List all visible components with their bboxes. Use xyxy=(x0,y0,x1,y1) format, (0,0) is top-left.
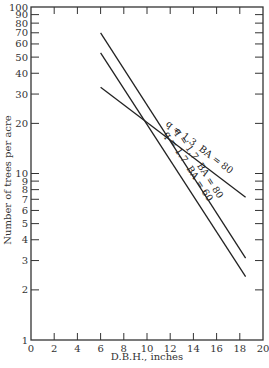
x-tick-label: 14 xyxy=(187,343,200,354)
y-tick-label: 1 xyxy=(22,335,28,346)
y-axis: 123456789102030405060708090100 xyxy=(9,2,263,346)
y-axis-title: Number of trees per acre xyxy=(2,115,13,244)
y-tick-label: 2 xyxy=(22,284,28,295)
x-tick-label: 20 xyxy=(257,343,269,354)
y-tick-label: 100 xyxy=(9,2,28,13)
y-tick-label: 70 xyxy=(15,27,28,38)
x-axis-title: D.B.H., inches xyxy=(111,351,183,362)
y-tick-label: 4 xyxy=(22,234,28,245)
y-tick-label: 20 xyxy=(15,118,28,129)
y-tick-label: 3 xyxy=(22,255,28,266)
y-tick-label: 7 xyxy=(22,194,28,205)
x-tick-label: 16 xyxy=(210,343,223,354)
y-tick-label: 10 xyxy=(15,168,28,179)
x-tick-label: 6 xyxy=(97,343,103,354)
y-tick-label: 5 xyxy=(22,218,28,229)
y-tick-label: 40 xyxy=(15,68,28,79)
line-labels: q = 1.7 BA = 80q = 1.7 BA = 60q = 1.3 BA… xyxy=(162,118,235,203)
y-tick-label: 30 xyxy=(15,89,28,100)
series-lines xyxy=(101,33,246,277)
x-tick-label: 18 xyxy=(233,343,246,354)
y-tick-label: 60 xyxy=(15,38,28,49)
x-tick-label: 4 xyxy=(74,343,80,354)
y-tick-label: 6 xyxy=(22,205,28,216)
y-tick-label: 50 xyxy=(15,52,28,63)
x-axis: 02468101214161820 xyxy=(28,7,269,354)
x-tick-label: 2 xyxy=(51,343,57,354)
chart: 02468101214161820 1234567891020304050607… xyxy=(0,0,269,368)
x-tick-label: 0 xyxy=(28,343,34,354)
